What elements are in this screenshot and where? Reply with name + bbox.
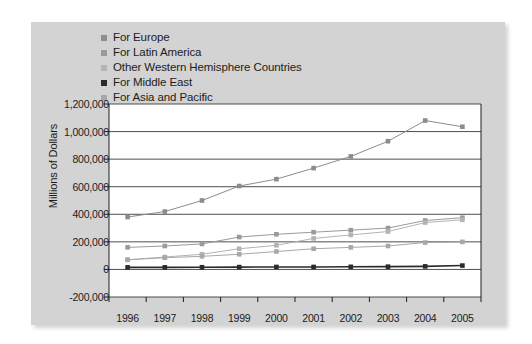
x-axis-tick-label: 1996 xyxy=(116,312,139,324)
plot-area-wrapper: Millions of Dollars 1,200,0001,000,00080… xyxy=(31,22,505,325)
data-point-marker xyxy=(311,236,316,241)
data-point-marker xyxy=(274,249,279,254)
data-point-marker xyxy=(274,232,279,237)
data-point-marker xyxy=(311,265,316,270)
x-axis-tick-label: 2000 xyxy=(265,312,288,324)
x-axis-tick-label: 2002 xyxy=(340,312,363,324)
data-point-marker xyxy=(237,265,242,270)
data-point-marker xyxy=(311,246,316,251)
data-point-marker xyxy=(349,228,354,233)
x-axis-tick-label: 1998 xyxy=(191,312,214,324)
data-point-marker xyxy=(423,220,428,225)
data-point-marker xyxy=(163,255,168,260)
data-point-marker xyxy=(460,218,465,223)
data-point-marker xyxy=(349,154,354,159)
data-point-marker xyxy=(125,245,130,250)
data-point-marker xyxy=(200,254,205,259)
data-point-marker xyxy=(274,177,279,182)
x-axis-tick-label: 1999 xyxy=(228,312,251,324)
data-point-marker xyxy=(349,233,354,238)
x-axis-tick-label: 2005 xyxy=(451,312,474,324)
line-chart-svg xyxy=(31,22,505,325)
data-point-marker xyxy=(386,244,391,249)
data-point-marker xyxy=(386,139,391,144)
x-axis-tick-label: 1997 xyxy=(154,312,177,324)
data-point-marker xyxy=(125,257,130,262)
data-point-marker xyxy=(423,118,428,123)
x-axis-tick-marks xyxy=(109,297,481,302)
data-point-marker xyxy=(163,244,168,249)
data-point-marker xyxy=(386,229,391,234)
data-point-marker xyxy=(460,240,465,245)
data-point-marker xyxy=(423,264,428,269)
data-point-marker xyxy=(200,198,205,203)
data-point-marker xyxy=(349,245,354,250)
x-axis-tick-label: 2001 xyxy=(302,312,325,324)
data-point-marker xyxy=(460,124,465,129)
data-point-marker xyxy=(200,265,205,270)
chart-screenshot: For Europe For Latin America Other Weste… xyxy=(0,0,532,344)
data-point-marker xyxy=(163,209,168,214)
data-point-marker xyxy=(237,252,242,257)
chart-card: For Europe For Latin America Other Weste… xyxy=(31,22,505,325)
x-axis-tick-label: 2003 xyxy=(377,312,400,324)
data-point-marker xyxy=(386,264,391,269)
data-point-marker xyxy=(200,242,205,247)
data-point-marker xyxy=(311,166,316,171)
data-point-marker xyxy=(125,265,130,270)
data-point-marker xyxy=(274,265,279,270)
data-point-marker xyxy=(125,215,130,220)
data-point-marker xyxy=(237,246,242,251)
data-point-marker xyxy=(163,265,168,270)
data-point-marker xyxy=(349,265,354,270)
x-axis-tick-label: 2004 xyxy=(414,312,437,324)
data-point-marker xyxy=(311,230,316,235)
data-point-marker xyxy=(460,263,465,268)
data-point-marker xyxy=(423,240,428,245)
data-point-marker xyxy=(274,243,279,248)
data-point-marker xyxy=(237,184,242,189)
data-point-marker xyxy=(237,235,242,240)
